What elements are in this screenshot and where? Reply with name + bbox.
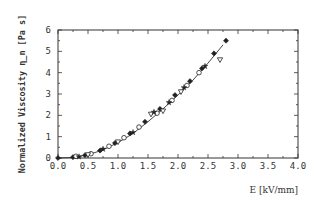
y-tick-label: 0 [46,153,51,163]
y-tick-label: 3 [46,89,51,99]
diamond-marker [172,92,177,97]
triangle-marker [160,109,165,114]
circle-marker [122,135,127,140]
x-tick-label: 1.0 [110,161,126,171]
x-axis-title: E [kV/mm] [249,185,298,195]
y-tick-label: 5 [46,46,51,56]
x-tick-label: 2.5 [200,161,216,171]
x-tick-label: 3.5 [260,161,276,171]
circle-marker [137,125,142,130]
data-points [55,38,228,161]
x-tick-label: 3.0 [230,161,246,171]
y-tick-label: 4 [46,68,51,78]
viscosity-chart: 0.00.51.01.52.02.53.03.54.0 0123456 Norm… [0,0,317,202]
y-axis-title: Normalized Viscosity η_n [Pa s] [17,15,27,174]
diamond-marker [142,119,147,124]
diamond-marker [223,38,228,43]
x-tick-label: 2.0 [170,161,186,171]
y-tick-label: 1 [46,132,51,142]
x-tick-label: 0.5 [80,161,96,171]
plot-frame [58,30,298,158]
fit-curve [58,45,223,158]
axis-ticks [58,30,298,158]
diamond-marker [187,79,192,84]
x-tick-label: 1.5 [140,161,156,171]
x-tick-label: 4.0 [290,161,306,171]
circle-marker [197,70,202,75]
x-tick-label: 0.0 [50,161,66,171]
circle-marker [107,144,112,149]
diamond-marker [211,51,216,56]
x-tick-labels: 0.00.51.01.52.02.53.03.54.0 [50,161,306,171]
diamond-marker [55,155,60,160]
y-tick-label: 2 [46,110,51,120]
y-tick-labels: 0123456 [46,25,51,163]
triangle-marker [217,58,222,63]
y-tick-label: 6 [46,25,51,35]
